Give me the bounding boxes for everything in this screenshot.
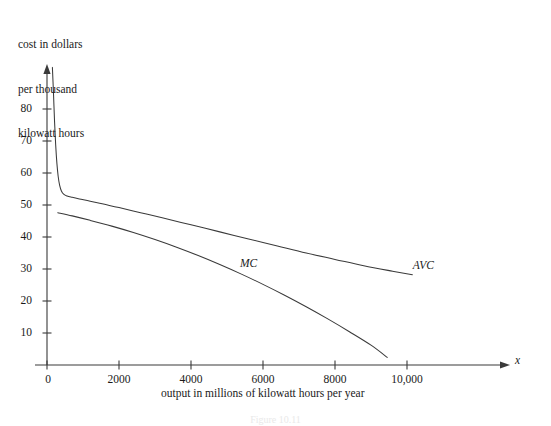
- y-tick-label-50: 50: [6, 197, 32, 212]
- y-axis-title-line-2: per thousand: [18, 82, 84, 97]
- x-axis-title: output in millions of kilowatt hours per…: [161, 386, 364, 401]
- x-axis-arrowhead: [500, 361, 510, 368]
- curve-avc: [52, 67, 412, 274]
- axes-group: [35, 64, 510, 369]
- y-tick-label-10: 10: [6, 325, 32, 340]
- figure-container: cost in dollars per thousand kilowatt ho…: [0, 0, 551, 426]
- x-tick-label-8000: 8000: [305, 372, 365, 387]
- tick-marks-group: [43, 109, 408, 370]
- figure-caption: Figure 10.11: [0, 414, 551, 425]
- curve-label-avc: AVC: [413, 258, 453, 273]
- y-axis-title-line-1: cost in dollars: [18, 37, 84, 52]
- y-tick-label-80: 80: [6, 101, 32, 116]
- x-tick-label-10000: 10,000: [377, 372, 437, 387]
- y-tick-label-20: 20: [6, 293, 32, 308]
- x-tick-label-0: 0: [23, 372, 51, 387]
- curve-mc: [58, 213, 387, 358]
- x-axis-variable-label: x: [515, 353, 520, 368]
- y-tick-label-60: 60: [6, 165, 32, 180]
- data-curves-group: [52, 67, 412, 357]
- y-tick-label-40: 40: [6, 229, 32, 244]
- y-tick-label-70: 70: [6, 133, 32, 148]
- x-tick-label-6000: 6000: [233, 372, 293, 387]
- curve-label-mc: MC: [240, 256, 280, 271]
- x-tick-label-4000: 4000: [161, 372, 221, 387]
- y-tick-label-30: 30: [6, 261, 32, 276]
- x-tick-label-2000: 2000: [89, 372, 149, 387]
